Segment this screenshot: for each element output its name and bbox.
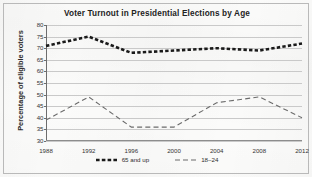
y-axis-title: Percentage of eligible voters [16, 29, 25, 133]
y-tick-label-30: 30 [37, 138, 44, 144]
legend-item-18-24: 18–24 [175, 156, 218, 163]
y-tick-label-55: 55 [37, 80, 44, 86]
y-tick-label-65: 65 [37, 57, 44, 63]
y-tick-label-45: 45 [37, 103, 44, 109]
x-tick-label-2000: 2000 [167, 148, 181, 154]
chart-legend: 65 and up 18–24 [4, 156, 310, 163]
y-tick-label-75: 75 [37, 34, 44, 40]
chart-screenshot: Voter Turnout in Presidential Elections … [0, 0, 312, 177]
legend-label-65-and-up: 65 and up [122, 156, 150, 163]
series-lines-group [46, 25, 302, 141]
legend-swatch-65-and-up [96, 157, 118, 163]
gridline-30 [46, 141, 302, 142]
legend-item-65-and-up: 65 and up [96, 156, 150, 163]
chart-frame: Voter Turnout in Presidential Elections … [3, 3, 309, 174]
x-tick-label-2008: 2008 [253, 148, 267, 154]
x-tick-label-1992: 1992 [82, 148, 96, 154]
y-tick-mark-30 [44, 141, 47, 142]
y-tick-label-60: 60 [37, 68, 44, 74]
x-tick-label-1996: 1996 [125, 148, 139, 154]
y-tick-label-50: 50 [37, 92, 44, 98]
y-tick-label-80: 80 [37, 22, 44, 28]
y-tick-label-40: 40 [37, 115, 44, 121]
chart-title: Voter Turnout in Presidential Elections … [4, 9, 310, 19]
legend-swatch-18-24 [175, 157, 197, 163]
y-tick-label-70: 70 [37, 45, 44, 51]
y-tick-label-35: 35 [37, 126, 44, 132]
x-tick-label-2012: 2012 [295, 148, 309, 154]
series-line-18-24 [46, 97, 302, 127]
series-line-65-and-up [46, 37, 302, 53]
x-tick-label-1988: 1988 [39, 148, 53, 154]
plot-area: 3035404550556065707580 19881992199620002… [46, 25, 302, 141]
legend-label-18-24: 18–24 [201, 156, 218, 163]
x-tick-label-2004: 2004 [210, 148, 224, 154]
